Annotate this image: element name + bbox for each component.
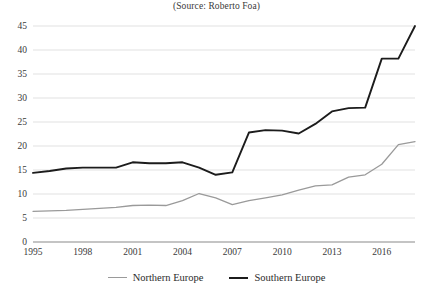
- y-tick-label: 45: [18, 21, 28, 31]
- chart-figure: (Source: Roberto Foa) 051015202530354045…: [0, 0, 433, 297]
- source-note: (Source: Roberto Foa): [0, 0, 433, 13]
- legend-item-northern-europe: Northern Europe: [108, 272, 204, 283]
- y-tick-label: 5: [22, 213, 27, 223]
- x-tick-label: 2013: [322, 247, 341, 257]
- chart-legend: Northern Europe Southern Europe: [0, 272, 433, 283]
- x-tick-label: 1995: [24, 247, 43, 257]
- y-tick-label: 30: [18, 93, 28, 103]
- y-tick-label: 25: [18, 117, 28, 127]
- x-tick-label: 2010: [273, 247, 292, 257]
- series-group: [33, 26, 415, 211]
- y-tick-label: 40: [18, 45, 28, 55]
- x-tick-label: 1998: [73, 247, 92, 257]
- y-axis-labels-group: 051015202530354045: [18, 21, 28, 247]
- legend-label-southern-europe: Southern Europe: [254, 272, 325, 283]
- legend-item-southern-europe: Southern Europe: [229, 272, 325, 283]
- legend-label-northern-europe: Northern Europe: [133, 272, 204, 283]
- x-axis-labels-group: 19951998200120042007201020132016: [24, 247, 392, 257]
- series-line-southern-europe: [33, 26, 415, 175]
- x-tick-label: 2007: [223, 247, 242, 257]
- y-tick-label: 15: [18, 165, 28, 175]
- legend-swatch-northern-europe: [108, 277, 127, 278]
- x-tick-label: 2016: [372, 247, 391, 257]
- x-tick-label: 2001: [123, 247, 142, 257]
- line-chart-svg: 051015202530354045 199519982001200420072…: [0, 14, 433, 264]
- series-line-northern-europe: [33, 142, 415, 212]
- x-tick-label: 2004: [173, 247, 192, 257]
- gridlines-group: [33, 26, 415, 242]
- y-tick-label: 35: [18, 69, 28, 79]
- y-tick-label: 10: [18, 189, 28, 199]
- legend-swatch-southern-europe: [229, 277, 248, 279]
- plot-area: 051015202530354045 199519982001200420072…: [0, 14, 433, 264]
- y-tick-label: 20: [18, 141, 28, 151]
